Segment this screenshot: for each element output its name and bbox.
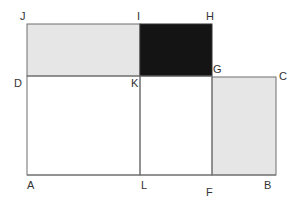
label-c: C — [279, 70, 287, 82]
region-gcbf — [212, 77, 276, 175]
label-i: I — [137, 10, 140, 22]
label-f: F — [206, 186, 213, 198]
region-dkla — [27, 76, 140, 175]
label-g: G — [213, 63, 222, 75]
region-jikd — [27, 24, 140, 76]
label-h: H — [206, 10, 214, 22]
region-kgfl — [140, 76, 212, 175]
label-k: K — [131, 77, 139, 89]
label-b: B — [264, 179, 271, 191]
diagram-canvas: J I H D K G C A L F B — [0, 0, 297, 202]
region-ihgk — [140, 24, 212, 76]
label-l: L — [141, 179, 147, 191]
label-d: D — [14, 77, 22, 89]
label-j: J — [20, 10, 26, 22]
label-a: A — [27, 179, 35, 191]
